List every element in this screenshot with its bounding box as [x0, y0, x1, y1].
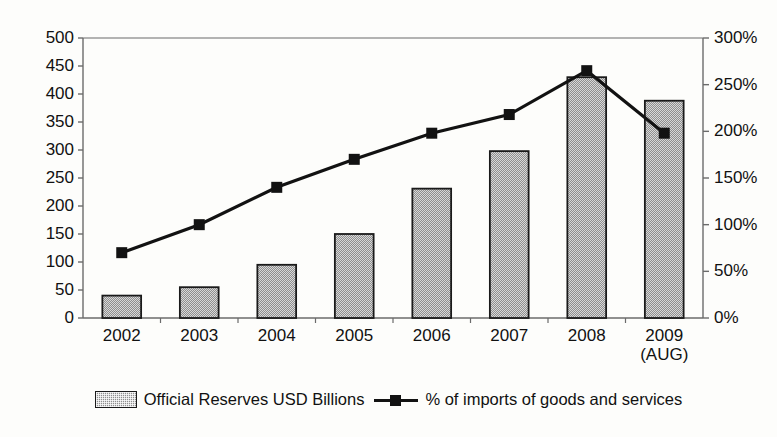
legend-label-percent-imports: % of imports of goods and services: [425, 390, 682, 409]
line-marker: [504, 109, 515, 120]
bar: [180, 287, 219, 318]
plot-area: [0, 0, 777, 437]
line-marker: [349, 154, 360, 165]
bar: [102, 296, 141, 318]
bar: [335, 234, 374, 318]
line-marker: [581, 65, 592, 76]
bar: [412, 189, 451, 318]
axes-lines: [78, 38, 709, 323]
line-square-swatch-icon: [374, 393, 418, 407]
bar: [257, 265, 296, 318]
chart-container: 050100150200250300350400450500 0%50%100%…: [0, 0, 777, 437]
line-marker: [659, 128, 670, 139]
legend-item-official-reserves: Official Reserves USD Billions: [95, 390, 365, 409]
line-marker: [116, 247, 127, 258]
legend-item-percent-imports: % of imports of goods and services: [374, 390, 682, 409]
line-marker: [271, 182, 282, 193]
bar-swatch-icon: [95, 391, 137, 408]
legend-label-official-reserves: Official Reserves USD Billions: [144, 390, 365, 409]
bar: [567, 77, 606, 318]
line-marker: [426, 128, 437, 139]
bar: [490, 151, 529, 318]
line-marker: [194, 219, 205, 230]
chart-legend: Official Reserves USD Billions % of impo…: [0, 390, 777, 409]
bar-series-official-reserves: [102, 77, 683, 318]
